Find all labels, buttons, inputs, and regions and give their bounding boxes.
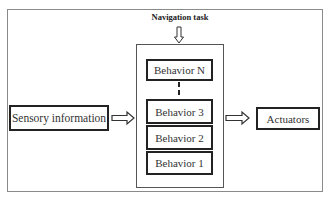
connectors-layer — [0, 0, 330, 198]
down-arrow-icon — [175, 27, 184, 43]
right-arrow-icon — [112, 112, 134, 124]
right-arrow-icon — [226, 112, 249, 124]
